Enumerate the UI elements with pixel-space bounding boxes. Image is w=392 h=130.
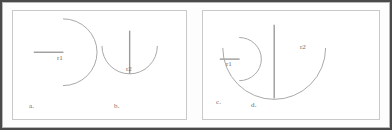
figure-root: r1 a. r2 b. r1 c. r2 d. <box>0 0 392 130</box>
shape-c-radius-label: r1 <box>226 61 232 68</box>
shape-a-radius-label: r1 <box>57 55 63 62</box>
shape-b-caption: b. <box>114 103 120 110</box>
panel-right: r1 c. r2 d. <box>202 10 380 120</box>
panel-left-drawing <box>13 11 186 119</box>
shape-b-radius-label: r2 <box>126 66 132 73</box>
shape-a-caption: a. <box>29 103 34 110</box>
shape-d-caption: d. <box>251 102 257 109</box>
shape-c-caption: c. <box>216 99 221 106</box>
panel-left: r1 a. r2 b. <box>12 10 187 120</box>
shape-a-arc <box>63 19 97 86</box>
shape-c-arc <box>240 38 262 81</box>
shape-d-radius-label: r2 <box>300 44 306 51</box>
